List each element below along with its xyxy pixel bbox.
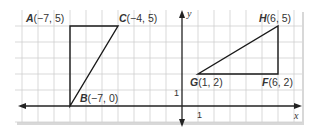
coordinate-figure: A(−7, 5) C(−4, 5) B(−7, 0) H(6, 5) G(1, … — [0, 0, 309, 133]
label-point-g: G(1, 2) — [190, 76, 223, 88]
coordinate-plane: A(−7, 5) C(−4, 5) B(−7, 0) H(6, 5) G(1, … — [0, 0, 309, 133]
y-tick-label: 1 — [174, 88, 179, 98]
label-point-c: C(−4, 5) — [119, 12, 157, 24]
label-point-b: B(−7, 0) — [80, 92, 118, 104]
label-point-h: H(6, 5) — [259, 12, 291, 24]
label-point-f: F(6, 2) — [262, 76, 293, 88]
x-tick-label: 1 — [197, 110, 202, 120]
y-axis-down-arrow-icon — [179, 119, 185, 127]
label-point-a: A(−7, 5) — [25, 12, 64, 24]
grid-panel — [15, 10, 302, 122]
x-axis-label: x — [293, 110, 299, 121]
y-axis-label: y — [186, 8, 192, 19]
